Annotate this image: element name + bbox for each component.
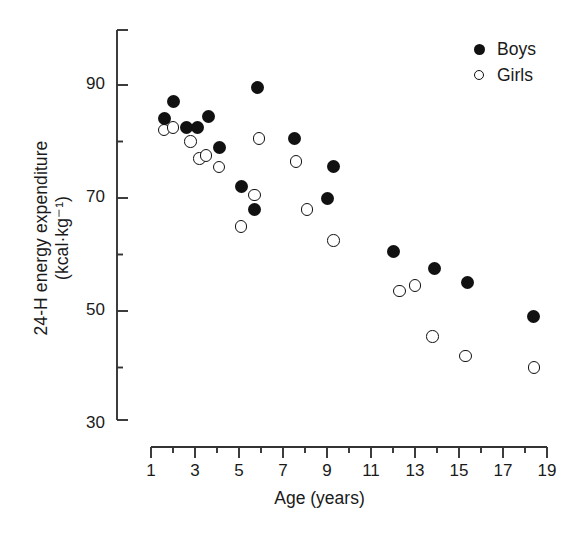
data-point-boys bbox=[235, 180, 248, 193]
data-point-boys bbox=[321, 192, 334, 205]
data-point-girls bbox=[253, 132, 266, 145]
x-tick-label: 19 bbox=[527, 461, 567, 481]
legend-label-girls: Girls bbox=[497, 65, 533, 86]
x-tick-label: 1 bbox=[131, 461, 171, 481]
x-axis-label: Age (years) bbox=[0, 488, 577, 509]
data-point-boys bbox=[288, 132, 301, 145]
x-tick-label: 5 bbox=[219, 461, 259, 481]
y-axis-label-line1: 24-H energy expenditure bbox=[31, 141, 52, 336]
data-point-boys bbox=[167, 95, 180, 108]
data-point-boys bbox=[387, 245, 400, 258]
legend-item-girls: Girls bbox=[470, 62, 565, 88]
data-point-girls bbox=[528, 361, 541, 374]
x-tick-label: 15 bbox=[439, 461, 479, 481]
data-point-boys bbox=[248, 203, 261, 216]
x-tick-label: 3 bbox=[175, 461, 215, 481]
legend-item-boys: Boys bbox=[470, 36, 565, 62]
data-point-girls bbox=[301, 203, 314, 216]
chart-legend: Boys Girls bbox=[470, 36, 565, 88]
data-point-boys bbox=[191, 121, 204, 134]
data-point-girls bbox=[426, 330, 439, 343]
x-tick-label: 7 bbox=[263, 461, 303, 481]
y-tick-label: 50 bbox=[65, 300, 105, 320]
data-point-girls bbox=[184, 135, 197, 148]
y-axis-label: 24-H energy expenditure (kcal·kg⁻¹) bbox=[22, 83, 82, 393]
data-point-girls bbox=[290, 155, 303, 168]
data-point-girls bbox=[235, 220, 248, 233]
x-axis-label-text: Age (years) bbox=[212, 488, 364, 509]
scatter-chart-figure: 24-H energy expenditure (kcal·kg⁻¹) Age … bbox=[0, 0, 577, 536]
data-point-boys bbox=[213, 141, 226, 154]
data-point-girls bbox=[200, 149, 213, 162]
legend-label-boys: Boys bbox=[497, 39, 536, 60]
data-point-boys bbox=[202, 110, 215, 123]
y-axis-label-line2: (kcal·kg⁻¹) bbox=[52, 196, 73, 280]
y-tick-label: 30 bbox=[65, 413, 105, 433]
x-tick-label: 17 bbox=[483, 461, 523, 481]
y-tick-label: 70 bbox=[65, 187, 105, 207]
filled-circle-icon bbox=[470, 44, 488, 55]
data-point-girls bbox=[409, 279, 422, 292]
y-tick-label: 90 bbox=[65, 74, 105, 94]
open-circle-icon bbox=[470, 70, 488, 80]
x-tick-label: 9 bbox=[307, 461, 347, 481]
data-point-girls bbox=[327, 234, 340, 247]
x-tick-label: 11 bbox=[351, 461, 391, 481]
data-point-girls bbox=[248, 189, 261, 202]
x-tick-label: 13 bbox=[395, 461, 435, 481]
